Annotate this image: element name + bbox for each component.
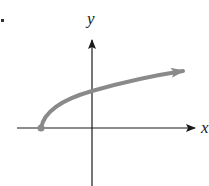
function-curve [41,71,183,128]
function-graph: y x [0,0,209,186]
y-axis-label: y [85,9,95,28]
curve-start-point [38,125,45,132]
x-axis-label: x [200,118,209,137]
